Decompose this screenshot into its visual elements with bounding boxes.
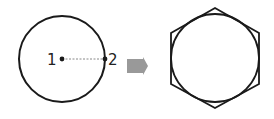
transform-arrow-icon — [127, 57, 148, 75]
point-2-label: 2 — [108, 51, 118, 69]
edge-point — [103, 57, 108, 62]
right-figure — [171, 8, 259, 108]
circle-to-hexagon-diagram: 1 2 — [0, 0, 274, 119]
inscribed-circle — [171, 14, 259, 102]
point-1-label: 1 — [47, 51, 57, 69]
hexagon — [171, 8, 259, 108]
center-point — [60, 57, 65, 62]
left-figure: 1 2 — [19, 16, 118, 102]
